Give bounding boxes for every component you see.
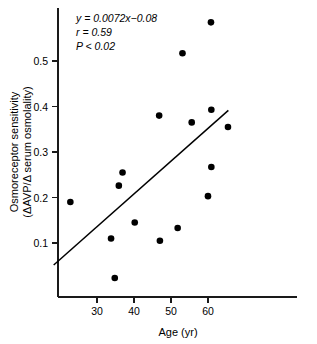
data-point bbox=[157, 237, 164, 244]
y-tick-label-0.2: 0.2 bbox=[33, 192, 48, 204]
x-ticks-group: 30 40 50 60 bbox=[91, 297, 214, 317]
p-value-text: P < 0.02 bbox=[76, 40, 115, 52]
correlation-coefficient-text: r = 0.59 bbox=[76, 26, 112, 38]
data-point bbox=[108, 235, 115, 242]
data-point bbox=[174, 225, 181, 232]
data-point bbox=[208, 19, 215, 26]
data-point bbox=[156, 112, 163, 119]
scatter-plot-figure: 0.5 0.4 0.3 0.2 0.1 30 40 50 60 Age (yr)… bbox=[0, 0, 317, 344]
y-tick-label-0.1: 0.1 bbox=[33, 237, 48, 249]
y-tick-label-0.3: 0.3 bbox=[33, 146, 48, 158]
data-points-group bbox=[67, 19, 231, 281]
data-point bbox=[205, 193, 212, 200]
data-point bbox=[111, 275, 118, 282]
y-ticks-group: 0.5 0.4 0.3 0.2 0.1 bbox=[33, 55, 58, 249]
chart-canvas: 0.5 0.4 0.3 0.2 0.1 30 40 50 60 Age (yr)… bbox=[0, 0, 317, 344]
data-point bbox=[225, 124, 232, 131]
y-tick-label-0.4: 0.4 bbox=[33, 101, 48, 113]
regression-line bbox=[54, 110, 229, 265]
data-point bbox=[119, 169, 126, 176]
y-tick-label-0.5: 0.5 bbox=[33, 55, 48, 67]
data-point bbox=[208, 106, 215, 113]
x-axis-title: Age (yr) bbox=[158, 326, 197, 338]
x-tick-label-30: 30 bbox=[91, 305, 103, 317]
x-tick-label-60: 60 bbox=[202, 305, 214, 317]
x-tick-label-40: 40 bbox=[128, 305, 140, 317]
y-axis-title-line2: (ΔAVP/Δ serum osmolality) bbox=[21, 86, 33, 217]
data-point bbox=[67, 199, 74, 206]
y-axis-title-line1: Osmoreceptor sensitivity bbox=[8, 91, 20, 212]
regression-equation-text: y = 0.0072x−0.08 bbox=[75, 12, 157, 24]
statistics-annotation: y = 0.0072x−0.08 r = 0.59 P < 0.02 bbox=[75, 12, 157, 52]
x-tick-label-50: 50 bbox=[165, 305, 177, 317]
data-point bbox=[116, 182, 123, 189]
data-point bbox=[131, 219, 138, 226]
data-point bbox=[208, 164, 215, 171]
data-point bbox=[188, 119, 195, 126]
data-point bbox=[179, 50, 186, 57]
